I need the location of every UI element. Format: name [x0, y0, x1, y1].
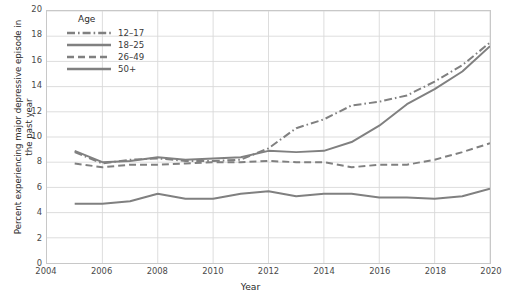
x-tick-label: 2012: [249, 266, 289, 276]
x-tick-label: 2018: [415, 266, 455, 276]
x-tick-label: 2020: [471, 266, 506, 276]
x-tick-label: 2014: [304, 266, 344, 276]
legend-label: 12–17: [118, 28, 144, 38]
x-tick-label: 2016: [360, 266, 400, 276]
legend-rows: 12–1718–2526–4950+: [66, 27, 186, 75]
x-tick-label: 2004: [26, 266, 66, 276]
legend: Age 12–1718–2526–4950+: [66, 14, 186, 75]
legend-item-12-17[interactable]: 12–17: [66, 27, 186, 39]
legend-label: 26–49: [118, 52, 144, 62]
legend-swatch-icon: [66, 28, 112, 38]
series-line-50+: [75, 189, 490, 204]
legend-item-50+[interactable]: 50+: [66, 63, 186, 75]
x-tick-label: 2010: [193, 266, 233, 276]
legend-item-26-49[interactable]: 26–49: [66, 51, 186, 63]
legend-label: 50+: [118, 64, 136, 74]
legend-item-18-25[interactable]: 18–25: [66, 39, 186, 51]
legend-swatch-icon: [66, 40, 112, 50]
legend-swatch-icon: [66, 52, 112, 62]
x-tick-label: 2006: [82, 266, 122, 276]
x-tick-label: 2008: [137, 266, 177, 276]
legend-label: 18–25: [118, 40, 144, 50]
series-line-26-49: [75, 143, 490, 167]
legend-swatch-icon: [66, 64, 112, 74]
legend-title: Age: [78, 14, 186, 24]
